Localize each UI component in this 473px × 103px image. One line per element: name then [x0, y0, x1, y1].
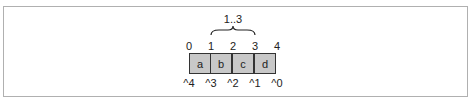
rev-index-0: ^0	[271, 77, 282, 89]
index-3: 3	[252, 40, 258, 52]
index-2: 2	[230, 40, 236, 52]
index-0: 0	[186, 40, 192, 52]
index-1: 1	[208, 40, 214, 52]
rev-index-3: ^3	[205, 77, 216, 89]
cell-d: d	[254, 53, 276, 74]
rev-index-4: ^4	[183, 77, 194, 89]
cell-a: a	[189, 53, 211, 74]
cell-b: b	[210, 53, 232, 74]
rev-index-2: ^2	[227, 77, 238, 89]
cell-c: c	[232, 53, 254, 74]
range-label: 1..3	[224, 13, 242, 25]
rev-index-1: ^1	[249, 77, 260, 89]
index-4: 4	[274, 40, 280, 52]
